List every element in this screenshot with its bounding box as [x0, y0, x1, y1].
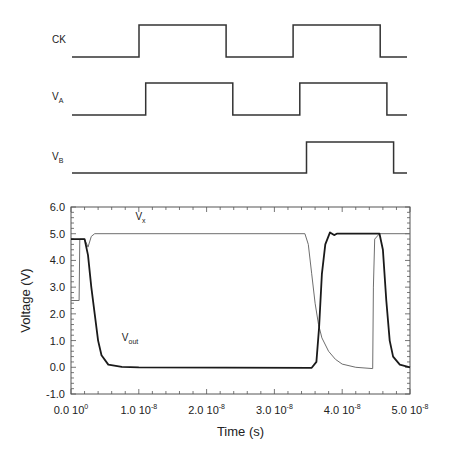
y-tick-label: 4.0 — [50, 254, 65, 266]
timing-figure: CKVAVB 6.05.04.03.02.01.00.0-1.0 0.0 100… — [0, 0, 453, 461]
y-tick-label: 6.0 — [50, 201, 65, 213]
waveform-label: CK — [52, 34, 66, 45]
series-line-v-out — [71, 232, 410, 367]
waveform-label: VB — [52, 151, 64, 164]
x-axis-label: Time (s) — [217, 424, 264, 439]
waveform-label: VA — [52, 91, 64, 104]
x-tick-label: 1.0 10-8 — [120, 403, 157, 416]
x-tick-label: 4.0 10-8 — [324, 403, 361, 416]
waveform-v-a — [72, 83, 407, 115]
y-tick-label: 2.0 — [50, 308, 65, 320]
y-tick-label: 5.0 — [50, 228, 65, 240]
series-label-v-x: Vx — [135, 211, 146, 224]
y-tick-label: 0.0 — [50, 361, 65, 373]
y-tick-label: -1.0 — [46, 388, 65, 400]
series-label-v-out: Vout — [122, 332, 138, 345]
x-tick-label: 2.0 10-8 — [188, 403, 225, 416]
x-tick-label: 3.0 10-8 — [256, 403, 293, 416]
voltage-plot: 6.05.04.03.02.01.00.0-1.0 0.0 1001.0 10-… — [18, 201, 429, 439]
y-tick-label: 3.0 — [50, 281, 65, 293]
waveform-ck — [72, 25, 407, 57]
y-tick-labels: 6.05.04.03.02.01.00.0-1.0 — [46, 201, 65, 400]
waveform-v-b — [72, 142, 407, 173]
x-tick-label: 0.0 100 — [54, 403, 89, 416]
digital-waveforms: CKVAVB — [52, 25, 407, 173]
series-lines — [71, 232, 410, 368]
series-labels: VxVout — [122, 211, 146, 344]
series-line-v-x — [71, 234, 410, 369]
y-tick-label: 1.0 — [50, 335, 65, 347]
x-tick-label: 5.0 10-8 — [392, 403, 429, 416]
y-axis-label: Voltage (V) — [18, 268, 33, 332]
x-tick-labels: 0.0 1001.0 10-82.0 10-83.0 10-84.0 10-85… — [54, 403, 429, 416]
